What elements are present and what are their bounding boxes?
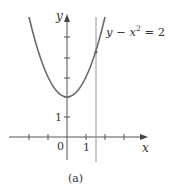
y-axis-arrow-icon [64,14,70,22]
equation-rhs: = 2 [141,25,165,39]
figure-caption: (a) [68,172,83,185]
x-axis-arrow-icon [140,134,148,140]
x-tick-label-1: 1 [83,141,90,154]
x-axis-label: x [142,141,149,155]
equation-minus: − [113,25,130,39]
y-axis-label: y [55,9,63,23]
y-tick-label-1: 1 [55,111,62,124]
intersection-point [94,50,97,53]
graph-figure: y x 0 1 1 y − x2 = 2 (a) [0,0,185,192]
origin-label: 0 [57,140,64,153]
equation-label: y − x2 = 2 [105,24,165,39]
